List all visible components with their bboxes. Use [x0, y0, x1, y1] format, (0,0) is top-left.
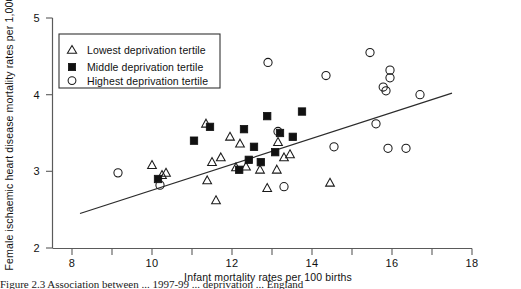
data-point-filled-square: [245, 156, 252, 163]
x-tick-label-10: 10: [146, 257, 159, 269]
x-tick-label-8: 8: [69, 257, 75, 269]
data-point-open-triangle: [263, 184, 272, 192]
data-point-open-circle: [322, 71, 330, 79]
x-tick-label-18: 18: [466, 257, 479, 269]
data-point-filled-square: [206, 123, 213, 130]
y-tick-group: 5 4 3 2: [34, 12, 53, 254]
data-point-open-triangle: [236, 139, 245, 147]
data-point-open-circle: [264, 58, 272, 66]
legend: Lowest deprivation tertile Middle depriv…: [59, 34, 220, 88]
data-point-open-triangle: [286, 150, 295, 158]
x-tick-label-14: 14: [306, 257, 319, 269]
legend-label-middle: Middle deprivation tertile: [87, 61, 203, 73]
data-point-filled-square: [264, 112, 271, 119]
data-point-open-circle: [330, 143, 338, 151]
data-point-open-triangle: [212, 196, 221, 204]
data-point-open-triangle: [208, 158, 217, 166]
series-1: [154, 108, 305, 183]
y-tick-label-5: 5: [34, 12, 40, 24]
x-tick-label-16: 16: [386, 257, 399, 269]
data-point-open-circle: [386, 66, 394, 74]
y-tick-label-4: 4: [34, 89, 40, 101]
y-tick-label-3: 3: [34, 165, 40, 177]
data-point-open-triangle: [216, 153, 225, 161]
data-point-open-triangle: [226, 132, 235, 140]
data-point-filled-square: [250, 143, 257, 150]
data-point-filled-square: [240, 125, 247, 132]
data-point-filled-square: [289, 133, 296, 140]
data-point-filled-square: [272, 148, 279, 155]
figure-container: 5 4 3 2 8 10 12 14 16 18 Infant morta: [0, 0, 521, 289]
trend-line: [80, 93, 452, 213]
scatter-plot: 5 4 3 2 8 10 12 14 16 18 Infant morta: [0, 0, 521, 289]
x-tick-group: 8 10 12 14 16 18: [69, 249, 479, 270]
y-tick-label-2: 2: [34, 242, 40, 254]
legend-label-lowest: Lowest deprivation tertile: [87, 44, 206, 56]
data-point-open-triangle: [256, 165, 265, 173]
data-point-open-circle: [416, 91, 424, 99]
legend-label-highest: Highest deprivation tertile: [87, 75, 208, 87]
data-point-open-triangle: [203, 176, 212, 184]
data-point-open-circle: [386, 74, 394, 82]
data-point-filled-square: [298, 108, 305, 115]
figure-caption: Figure 2.3 Association between ... 1997-…: [0, 278, 521, 289]
data-point-open-circle: [372, 120, 380, 128]
data-point-open-circle: [114, 169, 122, 177]
data-point-open-triangle: [326, 178, 335, 186]
data-point-open-circle: [366, 48, 374, 56]
y-axis-title: Female ischaemic heart disease mortality…: [3, 0, 15, 271]
data-point-open-circle: [280, 183, 288, 191]
data-point-open-triangle: [272, 165, 281, 173]
data-point-open-triangle: [274, 138, 283, 146]
x-tick-label-12: 12: [226, 257, 239, 269]
data-point-filled-square: [257, 158, 264, 165]
data-point-open-triangle: [148, 161, 157, 169]
data-point-open-circle: [384, 144, 392, 152]
data-point-filled-square: [236, 166, 243, 173]
data-point-open-circle: [402, 144, 410, 152]
data-point-filled-square: [190, 137, 197, 144]
legend-marker-filled-square: [68, 63, 75, 70]
